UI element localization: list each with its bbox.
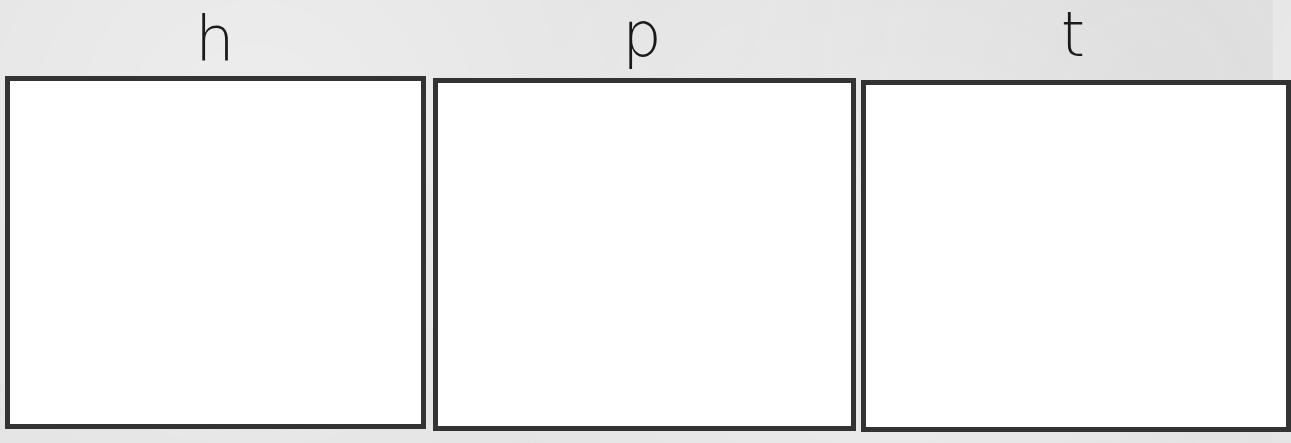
letter-p-heading: p [582,4,702,66]
letter-h-heading: h [155,8,275,70]
answer-box-h[interactable] [5,76,426,429]
letter-t-heading: t [1013,4,1133,66]
answer-box-t[interactable] [861,80,1291,432]
answer-box-p[interactable] [433,78,856,431]
